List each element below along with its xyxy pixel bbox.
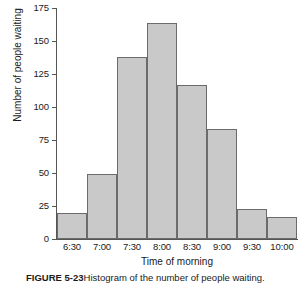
figure-caption-text: Histogram of the number of people waitin… (84, 273, 265, 283)
figure-histogram: Number of people waiting 025507510012515… (0, 0, 304, 283)
bar-cell (267, 8, 297, 239)
bar-cell (87, 8, 117, 239)
figure-caption: FIGURE 5-23Histogram of the number of pe… (26, 273, 304, 283)
bar-cell (237, 8, 267, 239)
bar (147, 23, 177, 239)
bar-series (57, 8, 297, 239)
y-axis-tick-label: 50 (39, 168, 49, 178)
y-axis-tick-label: 25 (39, 201, 49, 211)
bar (117, 57, 147, 239)
x-axis-tick-labels: 6:307:007:308:008:309:009:3010:00 (57, 242, 297, 252)
bar (207, 129, 237, 239)
figure-caption-label: FIGURE 5-23 (26, 273, 84, 283)
x-axis-title: Time of morning (57, 257, 297, 267)
bar (87, 174, 117, 239)
x-axis-tick-label: 9:00 (207, 242, 237, 252)
y-axis-title: Number of people waiting (13, 0, 23, 145)
x-axis-tick-label: 7:00 (87, 242, 117, 252)
x-axis-tick-label: 6:30 (57, 242, 87, 252)
x-axis-line (56, 239, 298, 240)
y-axis-tick-label: 0 (44, 234, 49, 244)
bar (57, 213, 87, 239)
bar-cell (147, 8, 177, 239)
x-axis-tick-label: 9:30 (237, 242, 267, 252)
y-axis-tick-label: 125 (33, 69, 49, 79)
bar (177, 85, 207, 239)
bar (267, 217, 297, 239)
bar-cell (57, 8, 87, 239)
y-axis-tick-label: 75 (39, 135, 49, 145)
x-axis-tick-label: 10:00 (267, 242, 297, 252)
bar-cell (207, 8, 237, 239)
bar-cell (177, 8, 207, 239)
bar-cell (117, 8, 147, 239)
plot-area (57, 8, 297, 239)
x-axis-tick-label: 8:30 (177, 242, 207, 252)
y-axis-tick-mark (52, 239, 57, 240)
bar (237, 209, 267, 239)
x-axis-tick-label: 8:00 (147, 242, 177, 252)
y-axis-tick-label: 175 (33, 3, 49, 13)
x-axis-tick-label: 7:30 (117, 242, 147, 252)
y-axis-tick-label: 150 (33, 36, 49, 46)
y-axis-tick-label: 100 (33, 102, 49, 112)
